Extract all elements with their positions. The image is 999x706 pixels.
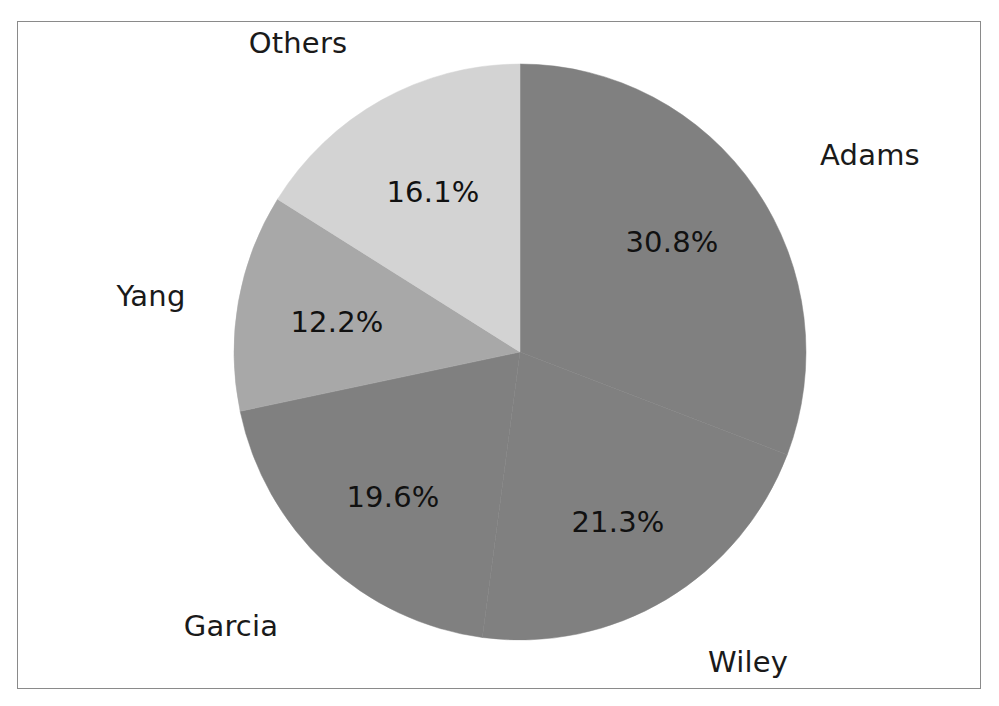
pie-value-yang: 12.2% [290, 305, 383, 339]
pie-chart-svg [0, 0, 999, 706]
pie-value-others: 16.1% [386, 175, 479, 209]
pie-label-wiley: Wiley [708, 645, 788, 679]
pie-label-garcia: Garcia [184, 609, 279, 643]
figure-root: Adams Wiley Garcia Yang Others 30.8% 21.… [0, 0, 999, 706]
pie-label-adams: Adams [820, 138, 920, 172]
pie-value-garcia: 19.6% [346, 480, 439, 514]
pie-label-yang: Yang [116, 279, 185, 313]
pie-chart-area: Adams Wiley Garcia Yang Others 30.8% 21.… [0, 0, 999, 706]
pie-slice-group [234, 64, 806, 640]
pie-label-others: Others [249, 26, 348, 60]
pie-value-adams: 30.8% [625, 225, 718, 259]
pie-value-wiley: 21.3% [571, 505, 664, 539]
